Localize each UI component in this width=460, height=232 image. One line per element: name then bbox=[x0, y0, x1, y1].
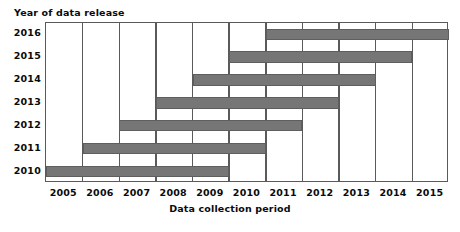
y-axis-title: Year of data release bbox=[14, 7, 125, 18]
bar-2016 bbox=[266, 29, 449, 41]
x-tick-2015: 2015 bbox=[411, 187, 448, 198]
chart-figure: Year of data release 2016201520142013201… bbox=[0, 0, 460, 232]
x-axis-title: Data collection period bbox=[0, 203, 460, 214]
y-tick-2015: 2015 bbox=[0, 50, 41, 61]
x-tick-2010: 2010 bbox=[228, 187, 265, 198]
y-tick-2014: 2014 bbox=[0, 73, 41, 84]
bar-2015 bbox=[229, 51, 412, 63]
x-tick-2008: 2008 bbox=[155, 187, 192, 198]
bar-row bbox=[46, 23, 447, 46]
x-tick-2013: 2013 bbox=[338, 187, 375, 198]
bar-row bbox=[46, 46, 447, 69]
x-tick-2012: 2012 bbox=[301, 187, 338, 198]
x-tick-2009: 2009 bbox=[192, 187, 229, 198]
bar-2014 bbox=[193, 74, 376, 86]
x-tick-2007: 2007 bbox=[118, 187, 155, 198]
bar-row bbox=[46, 92, 447, 115]
y-tick-2013: 2013 bbox=[0, 96, 41, 107]
bar-2010 bbox=[46, 166, 229, 178]
bar-row bbox=[46, 69, 447, 92]
bars-layer bbox=[46, 23, 447, 181]
x-tick-2011: 2011 bbox=[265, 187, 302, 198]
bar-2012 bbox=[119, 120, 302, 132]
x-tick-2014: 2014 bbox=[375, 187, 412, 198]
x-tick-2006: 2006 bbox=[82, 187, 119, 198]
bar-row bbox=[46, 137, 447, 160]
bar-row bbox=[46, 114, 447, 137]
bar-2013 bbox=[156, 97, 339, 109]
y-tick-2016: 2016 bbox=[0, 27, 41, 38]
x-tick-2005: 2005 bbox=[45, 187, 82, 198]
y-tick-2012: 2012 bbox=[0, 119, 41, 130]
y-tick-2010: 2010 bbox=[0, 165, 41, 176]
plot-area bbox=[45, 22, 448, 182]
bar-2011 bbox=[83, 143, 266, 155]
bar-row bbox=[46, 160, 447, 183]
y-tick-2011: 2011 bbox=[0, 142, 41, 153]
